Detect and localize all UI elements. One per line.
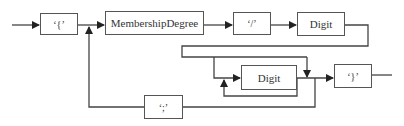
- node-membership-degree: MembershipDegree: [105, 11, 204, 35]
- node-digit-loop: Digit: [241, 65, 297, 90]
- syntax-diagram: ‘{’ MembershipDegree ‘/’ Digit Digit ‘;’…: [0, 0, 404, 126]
- node-close-brace: ‘}’: [334, 64, 372, 88]
- node-semicolon: ‘;’: [144, 95, 183, 119]
- node-digit-top: Digit: [297, 12, 345, 36]
- node-slash: ‘/’: [233, 12, 271, 35]
- node-open-brace: ‘{’: [40, 13, 78, 35]
